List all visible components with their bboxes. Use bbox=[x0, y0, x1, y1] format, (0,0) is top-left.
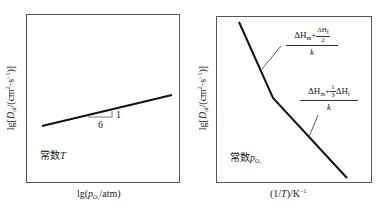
upper-activation-energy-formula: ΔHm+ΔHf2 k bbox=[286, 27, 338, 57]
constant-T-note: 常数T bbox=[40, 147, 66, 162]
lower-leader-line bbox=[309, 115, 318, 137]
left-plot-lines bbox=[0, 0, 192, 208]
left-y-axis-label: lg[Dal/(cm2·s−1)] bbox=[5, 43, 17, 153]
right-panel: lg[Dal/(cm2·s−1)] (1/T)/K−1 常数pO₂ ΔHm+ΔH… bbox=[192, 0, 384, 208]
constant-pO2-note: 常数pO₂ bbox=[230, 149, 261, 164]
pO2-dependence-line bbox=[42, 95, 172, 126]
right-x-axis-label: (1/T)/K−1 bbox=[270, 188, 306, 199]
right-y-axis-label: lg[Dal/(cm2·s−1)] bbox=[197, 43, 209, 153]
slope-run-label: 6 bbox=[98, 119, 103, 130]
upper-leader-line bbox=[262, 46, 281, 69]
slope-rise-label: 1 bbox=[116, 109, 121, 120]
left-x-axis-label: lg(pO₂/atm) bbox=[77, 188, 121, 200]
lower-activation-energy-formula: ΔHm+13ΔHf k bbox=[300, 84, 358, 112]
left-panel: lg[Dal/(cm2·s−1)] lg(pO₂/atm) 常数T 6 1 bbox=[0, 0, 192, 208]
